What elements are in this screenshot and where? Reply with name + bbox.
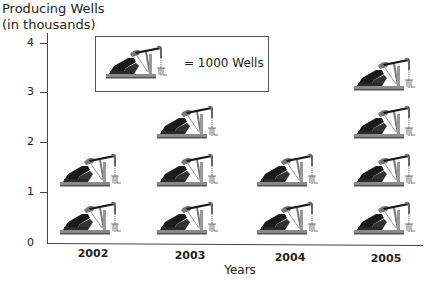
x-tick-label-2005: 2005 [356,252,416,265]
oil-pumpjack-icon [255,152,321,190]
oil-pumpjack-icon [155,152,221,190]
y-tick-1 [40,192,47,193]
y-tick-label-4: 4 [22,36,34,49]
legend-box: = 1000 Wells [95,36,269,92]
oil-pumpjack-icon [155,104,221,142]
oil-pumpjack-icon [255,200,321,238]
oil-pumpjack-icon [104,44,170,82]
y-axis-title: Producing Wells (in thousands) [2,1,105,33]
y-axis-title-line2: (in thousands) [2,17,105,33]
oil-pumpjack-icon [352,104,418,142]
y-tick-4 [40,43,47,44]
legend-text: = 1000 Wells [184,56,264,70]
x-tick-label-2002: 2002 [63,247,123,260]
y-tick-label-0: 0 [22,236,34,249]
y-tick-2 [40,142,47,143]
y-tick-label-3: 3 [22,85,34,98]
x-axis-title: Years [210,263,270,277]
y-axis-line [47,33,48,244]
oil-pumpjack-icon [58,152,124,190]
oil-pumpjack-icon [155,200,221,238]
oil-pumpjack-icon [58,200,124,238]
oil-pumpjack-icon [352,56,418,94]
oil-pumpjack-icon [352,152,418,190]
y-axis-title-line1: Producing Wells [2,1,105,17]
x-axis-line [47,243,423,246]
oil-pumpjack-icon [352,200,418,238]
y-tick-label-1: 1 [22,185,34,198]
x-tick-label-2003: 2003 [160,249,220,262]
y-tick-label-2: 2 [22,135,34,148]
y-tick-3 [40,92,47,93]
